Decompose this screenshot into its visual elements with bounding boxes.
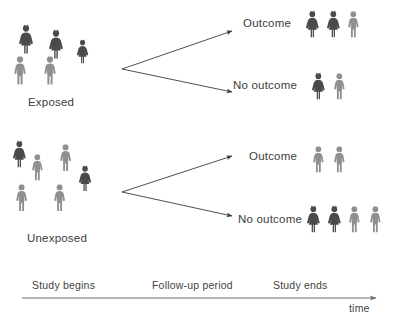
person-icon-light-male bbox=[311, 145, 326, 173]
branch-arrow-unexposed-no-outcome bbox=[122, 192, 232, 216]
person-icon-light-male bbox=[52, 183, 67, 212]
branch-label-exposed-outcome: Outcome bbox=[243, 17, 291, 29]
branch-label-unexposed-no-outcome: No outcome bbox=[238, 213, 302, 225]
person-icon-light-male bbox=[14, 183, 29, 212]
branch-arrow-group bbox=[122, 31, 232, 216]
person-icon-dark-female bbox=[326, 10, 341, 38]
outcome-people-exposed-outcome bbox=[305, 10, 361, 38]
outcome-people-unexposed-outcome bbox=[311, 145, 346, 173]
person-icon-light-male bbox=[58, 143, 73, 172]
person-icon-dark-female bbox=[311, 72, 326, 100]
timeline-stage-study-begins: Study begins bbox=[32, 279, 95, 291]
person-icon-dark-female bbox=[305, 10, 320, 38]
cohort-study-diagram: Exposed Unexposed Outcome No outcome Out… bbox=[0, 0, 395, 326]
person-icon-light-male bbox=[368, 205, 383, 233]
person-icon-dark-female bbox=[12, 140, 27, 168]
timeline-stage-follow-up-period: Follow-up period bbox=[152, 279, 233, 291]
branch-label-unexposed-outcome: Outcome bbox=[249, 150, 297, 162]
group-label-unexposed: Unexposed bbox=[27, 232, 87, 244]
person-icon-dark-female bbox=[78, 165, 92, 191]
person-icon-light-male bbox=[30, 153, 45, 181]
branch-label-exposed-no-outcome: No outcome bbox=[233, 79, 297, 91]
person-icon-light-male bbox=[332, 145, 347, 173]
branch-arrow-exposed-outcome bbox=[122, 31, 232, 69]
person-icon-dark-female bbox=[327, 205, 342, 233]
person-icon-dark-female bbox=[306, 205, 321, 233]
outcome-people-exposed-no-outcome bbox=[311, 72, 346, 100]
outcome-people-unexposed-no-outcome bbox=[306, 205, 383, 233]
person-icon-light-male bbox=[332, 72, 347, 100]
timeline-stage-study-ends: Study ends bbox=[273, 279, 328, 291]
timeline-axis-label: time bbox=[349, 302, 370, 314]
branch-arrow-unexposed-outcome bbox=[122, 156, 232, 192]
branch-arrow-exposed-no-outcome bbox=[122, 69, 232, 92]
cohort-cluster-unexposed bbox=[0, 0, 120, 240]
person-icon-light-male bbox=[347, 205, 362, 233]
person-icon-light-male bbox=[346, 10, 361, 38]
